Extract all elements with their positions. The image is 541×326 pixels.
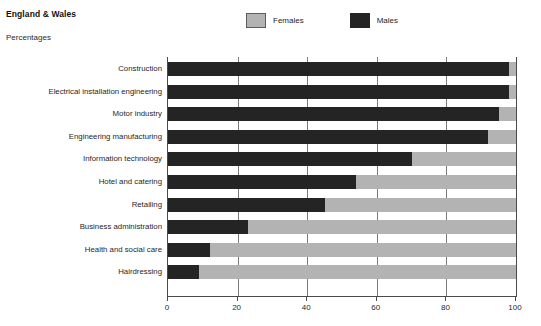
x-tick-label: 100 xyxy=(508,303,521,312)
x-tick-80 xyxy=(445,296,446,301)
category-label: Construction xyxy=(2,62,162,76)
x-tick-100 xyxy=(515,296,516,301)
x-tick-label: 40 xyxy=(302,303,311,312)
x-tick-60 xyxy=(376,296,377,301)
category-label: Motor industry xyxy=(2,107,162,121)
category-label: Retailing xyxy=(2,198,162,212)
category-label: Health and social care xyxy=(2,243,162,257)
category-label: Hairdressing xyxy=(2,265,162,279)
category-label: Hotel and catering xyxy=(2,175,162,189)
x-tick-0 xyxy=(167,296,168,301)
x-tick-40 xyxy=(306,296,307,301)
x-tick-label: 80 xyxy=(441,303,450,312)
category-label: Business administration xyxy=(2,220,162,234)
category-axis-labels: ConstructionElectrical installation engi… xyxy=(0,57,541,296)
x-tick-20 xyxy=(237,296,238,301)
category-label: Information technology xyxy=(2,152,162,166)
x-tick-label: 0 xyxy=(165,303,169,312)
x-tick-label: 60 xyxy=(371,303,380,312)
stacked-bar-chart: ConstructionElectrical installation engi… xyxy=(0,0,541,326)
category-label: Electrical installation engineering xyxy=(2,85,162,99)
category-label: Engineering manufacturing xyxy=(2,130,162,144)
x-tick-label: 20 xyxy=(232,303,241,312)
